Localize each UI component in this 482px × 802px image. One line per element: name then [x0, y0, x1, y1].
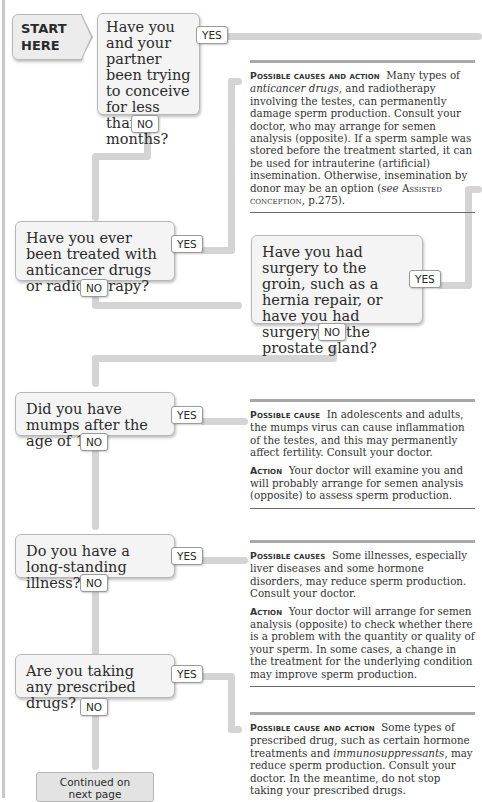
panel-drugs-body: Possible cause and action Some types of …: [250, 721, 475, 796]
question-q4: Did you have mumps after the age of 12?: [15, 392, 175, 436]
text: Your doctor will examine you and will pr…: [250, 464, 463, 502]
panel-top-rule: [250, 399, 475, 402]
continued-line2: next page: [37, 788, 153, 800]
question-q1: Have you and your partner been trying to…: [97, 13, 200, 115]
q6-yes-tag[interactable]: YES: [171, 665, 203, 683]
q3-yes-tag[interactable]: YES: [409, 270, 441, 288]
continued-next-page-button[interactable]: Continued on next page: [36, 772, 154, 802]
q4-no-tag[interactable]: NO: [80, 433, 108, 451]
flow-q2-no-h: [92, 302, 242, 309]
text: Many types of: [386, 69, 460, 81]
panel-illness-cause: Possible causes Some illnesses, especial…: [250, 549, 475, 600]
text: , and radiotherapy involving the testes,…: [250, 82, 472, 193]
flow-q3-no-h: [92, 355, 337, 362]
flow-q2-yes-top: [228, 78, 242, 85]
flow-q1-no-down: [92, 153, 99, 221]
panel-bottom-rule: [250, 508, 475, 509]
question-q5: Do you have a long-standing illness?: [15, 534, 175, 578]
start-arrow-tip-fill: [81, 15, 91, 59]
question-q5-text: Do you have a long-standing illness?: [26, 543, 130, 591]
panel-bottom-rule: [250, 686, 475, 687]
panel-drugs: Possible cause and action Some types of …: [250, 712, 475, 801]
panel-heading: Action: [250, 465, 282, 476]
flow-q5-no: [92, 582, 99, 657]
q6-no-tag[interactable]: NO: [80, 698, 108, 716]
panel-top-rule: [250, 60, 475, 63]
q2-no-tag[interactable]: NO: [80, 279, 108, 297]
flow-q3-no-down: [92, 355, 99, 387]
flow-q5-yes: [200, 557, 248, 564]
q5-yes-tag[interactable]: YES: [171, 547, 203, 565]
panel-anticancer: Possible causes and action Many types of…: [250, 60, 475, 213]
continued-line1: Continued on: [37, 776, 153, 788]
panel-heading: Possible causes: [250, 550, 325, 561]
q3-no-tag[interactable]: NO: [318, 323, 346, 341]
text: , p.275).: [302, 194, 345, 206]
panel-mumps-action: Action Your doctor will examine you and …: [250, 464, 475, 502]
page-margin-rule: [2, 0, 5, 798]
flow-q1-yes: [226, 33, 482, 40]
q4-yes-tag[interactable]: YES: [171, 406, 203, 424]
q1-no-tag[interactable]: NO: [131, 115, 159, 133]
panel-bottom-rule: [250, 212, 475, 213]
start-line2: HERE: [21, 37, 73, 54]
question-q2: Have you ever been treated with anticanc…: [15, 221, 175, 281]
text: Your doctor will arrange for semen analy…: [250, 605, 475, 680]
q5-no-tag[interactable]: NO: [80, 574, 108, 592]
question-q3: Have you had surgery to the groin, such …: [251, 235, 423, 324]
flow-q6-yes-end: [228, 726, 242, 733]
q2-yes-tag[interactable]: YES: [171, 235, 203, 253]
flow-q6-yes-down: [228, 673, 235, 733]
start-line1: START: [21, 20, 73, 37]
start-here-badge: START HERE: [12, 14, 82, 60]
text-italic: immunosuppressants: [333, 747, 444, 759]
flow-q2-yes-up: [228, 78, 235, 254]
panel-heading: Action: [250, 606, 282, 617]
panel-anticancer-body: Possible causes and action Many types of…: [250, 69, 475, 206]
panel-top-rule: [250, 540, 475, 543]
flow-q1-no-h: [95, 153, 151, 160]
panel-heading: Possible cause: [250, 409, 320, 420]
panel-top-rule: [250, 712, 475, 715]
panel-heading: Possible causes and action: [250, 70, 380, 81]
question-q6: Are you taking any prescribed drugs?: [15, 654, 175, 698]
panel-mumps: Possible cause In adolescents and adults…: [250, 399, 475, 509]
q1-yes-tag[interactable]: YES: [196, 26, 228, 44]
text-italic: anticancer drugs: [250, 82, 339, 94]
panel-mumps-cause: Possible cause In adolescents and adults…: [250, 408, 475, 459]
flow-q4-yes: [200, 418, 248, 425]
panel-heading: Possible cause and action: [250, 722, 375, 733]
text-italic: see: [381, 182, 398, 194]
flow-q4-no: [92, 440, 99, 530]
panel-illness-action: Action Your doctor will arrange for seme…: [250, 605, 475, 680]
panel-illness: Possible causes Some illnesses, especial…: [250, 540, 475, 687]
